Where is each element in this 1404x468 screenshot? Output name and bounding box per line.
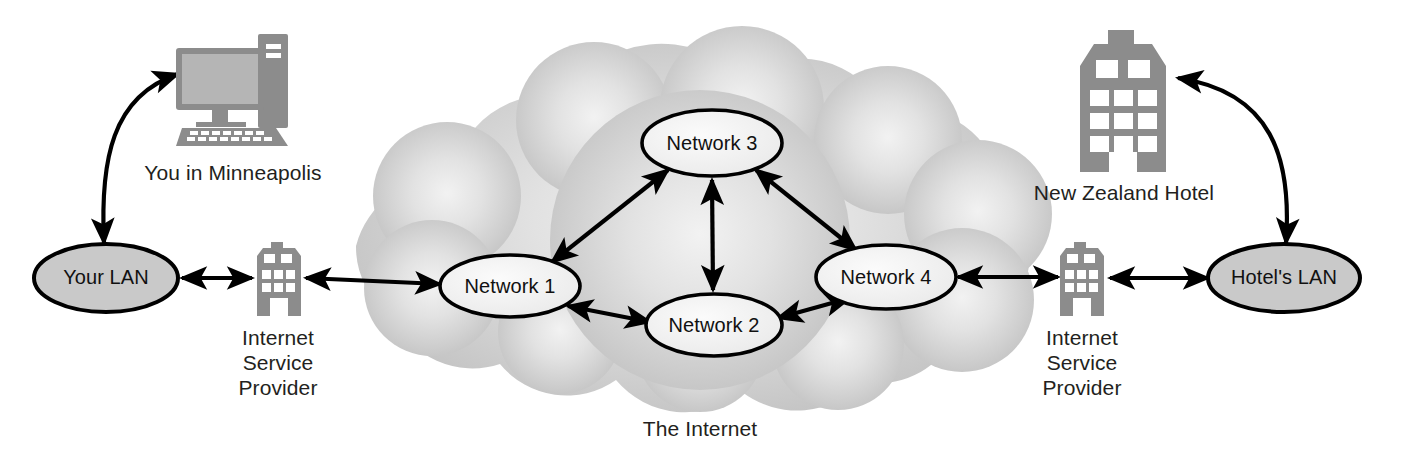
isp-building-icon-left[interactable] xyxy=(257,242,301,316)
node-label-network1: Network 1 xyxy=(430,275,590,298)
node-label-your-lan: Your LAN xyxy=(26,266,186,289)
label-new-zealand-hotel: New Zealand Hotel xyxy=(986,180,1262,205)
label-you-in-minneapolis: You in Minneapolis xyxy=(100,160,366,185)
desktop-computer-icon[interactable] xyxy=(176,34,288,146)
link-your-lan-computer xyxy=(103,74,178,243)
node-label-hotels-lan: Hotel's LAN xyxy=(1204,266,1364,289)
label-right-isp: Internet Service Provider xyxy=(1012,325,1152,400)
isp-building-icon-right[interactable] xyxy=(1060,242,1104,316)
label-the-internet: The Internet xyxy=(580,416,820,441)
hotel-building-icon[interactable] xyxy=(1080,30,1166,172)
node-label-network3: Network 3 xyxy=(632,132,792,155)
node-label-network4: Network 4 xyxy=(806,266,966,289)
link-hotels-lan-hotel xyxy=(1178,78,1287,243)
network-diagram: Your LAN Hotel's LAN Network 1 Network 2… xyxy=(0,0,1404,468)
link-network3-network2 xyxy=(712,180,713,290)
label-left-isp: Internet Service Provider xyxy=(208,325,348,400)
node-label-network2: Network 2 xyxy=(634,314,794,337)
